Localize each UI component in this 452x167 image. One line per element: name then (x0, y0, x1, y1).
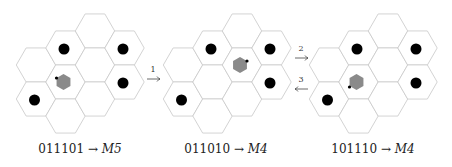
token-dot-icon (206, 44, 217, 55)
token-dot-icon (118, 78, 129, 89)
transition-label-2: 2 (298, 44, 303, 53)
token-dot-icon (265, 44, 276, 55)
caption-arrow-icon: → (234, 142, 244, 156)
caption-panel-2: 011010 → M4 (184, 142, 267, 156)
token-dot-icon (118, 44, 129, 55)
caption-arrow-icon: → (381, 142, 391, 156)
panel-1 (16, 14, 144, 133)
caption-panel-3: 101110 → M4 (331, 142, 414, 156)
token-dot-icon (352, 44, 363, 55)
caption-move: M4 (395, 142, 415, 156)
agent-orientation-marker-icon (55, 76, 58, 79)
caption-code: 011101 (38, 142, 84, 156)
token-dot-icon (411, 44, 422, 55)
agent-orientation-marker-icon (348, 85, 351, 88)
caption-panel-1: 011101 → M5 (38, 142, 121, 156)
token-dot-icon (322, 95, 333, 106)
transition-arrow-1 (147, 77, 160, 82)
token-dot-icon (411, 78, 422, 89)
token-dot-icon (59, 44, 70, 55)
transition-arrow-2 (295, 56, 308, 61)
token-dot-icon (29, 95, 40, 106)
transition-label-3: 3 (298, 75, 303, 84)
agent-orientation-marker-icon (245, 59, 248, 62)
transition-arrow-3 (295, 87, 308, 92)
caption-move: M4 (248, 142, 268, 156)
panel-2 (163, 14, 291, 133)
token-dot-icon (176, 95, 187, 106)
panel-3 (309, 14, 437, 133)
transition-label-1: 1 (150, 65, 155, 74)
caption-arrow-icon: → (88, 142, 98, 156)
caption-move: M5 (102, 142, 122, 156)
caption-code: 101110 (331, 142, 377, 156)
caption-code: 011010 (184, 142, 230, 156)
token-dot-icon (265, 78, 276, 89)
